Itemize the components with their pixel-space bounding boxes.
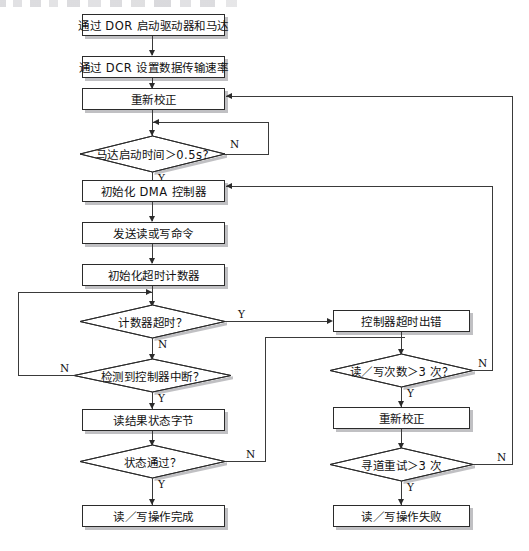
node-init-timer[interactable]: 初始化超时计数器 [82, 264, 225, 286]
node-ctrl-irq[interactable]: 检测到控制器中断？ [74, 359, 231, 392]
arrow-left-motortime-n [153, 119, 159, 125]
branch-label-status-no: N [246, 448, 255, 460]
arrow-right-irq-n [146, 289, 152, 295]
connector-rwcount-n-right [473, 370, 492, 371]
flowchart-canvas: 通过 DOR 启动驱动器和马达 通过 DCR 设置数据传输速率 重新校正 马达启… [0, 0, 529, 551]
connector-timer-yes-right [225, 321, 327, 322]
connector-statusok-n-up [265, 337, 266, 462]
node-recalibrate-top[interactable]: 重新校正 [82, 88, 225, 110]
arrow-left-seek-n [226, 93, 232, 99]
branch-label-irq-no: N [60, 362, 69, 374]
branch-label-motor-time-no: N [230, 138, 239, 150]
branch-label-irq-yes: Y [158, 392, 165, 404]
connector-statusok-n-right [225, 461, 266, 462]
node-send-cmd[interactable]: 发送读或写命令 [82, 222, 225, 244]
node-ctrl-timeout-err[interactable]: 控制器超时出错 [333, 310, 470, 332]
node-set-rate[interactable]: 通过 DCR 设置数据传输速率 [82, 56, 225, 78]
connector-rwcount-n-up [492, 186, 493, 371]
node-start-motor[interactable]: 通过 DOR 启动驱动器和马达 [82, 14, 225, 36]
node-timer-expired[interactable]: 计数器超时？ [80, 305, 225, 338]
node-status-ok[interactable]: 状态通过？ [80, 445, 225, 478]
branch-label-seek-yes: Y [407, 481, 414, 493]
branch-label-status-yes: Y [158, 478, 165, 490]
arrow-left-rwcount-n [226, 183, 232, 189]
connector-motortime-n-back [152, 122, 268, 123]
branch-label-rwcount-yes: Y [407, 387, 414, 399]
node-op-failed[interactable]: 读／写操作失败 [333, 505, 470, 527]
node-recalibrate-retry[interactable]: 重新校正 [333, 407, 470, 429]
connector-seek-n-up [512, 96, 513, 465]
branch-label-rwcount-no: N [478, 357, 487, 369]
connector-irq-n-back [18, 292, 152, 293]
node-init-dma[interactable]: 初始化 DMA 控制器 [82, 180, 225, 202]
connector-seek-n-back [226, 96, 512, 97]
branch-label-timer-yes: Y [238, 308, 245, 320]
connector-seek-n-right [473, 464, 512, 465]
connector-irq-n-left [18, 375, 75, 376]
node-seek-retry[interactable]: 寻道重试＞3 次 [330, 448, 473, 481]
node-rw-count[interactable]: 读／写次数＞3 次？ [330, 354, 473, 387]
connector-statusok-n-join [265, 337, 405, 338]
connector-irq-n-up [18, 292, 19, 376]
connector-motortime-n-right [225, 154, 268, 155]
page-text-remnant [0, 0, 300, 7]
connector-motortime-n-up [268, 122, 269, 155]
node-op-done[interactable]: 读／写操作完成 [82, 505, 225, 527]
branch-label-seek-no: N [497, 451, 506, 463]
connector-rwcount-n-back [226, 186, 492, 187]
branch-label-timer-no: N [158, 338, 167, 350]
node-read-status[interactable]: 读结果状态字节 [82, 409, 225, 431]
node-motor-time[interactable]: 马达启动时间＞0.5s? [80, 136, 225, 172]
